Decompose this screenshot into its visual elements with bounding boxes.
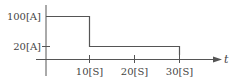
current-waveform — [46, 17, 180, 56]
x-label-10: 10[S] — [76, 66, 103, 77]
x-label-20: 20[S] — [121, 66, 148, 77]
y-label-100: 100[A] — [7, 11, 41, 22]
current-time-chart: t 100[A] 20[A] 10[S] 20[S] 30[S] — [0, 0, 234, 83]
x-axis-arrow-icon — [213, 57, 222, 63]
y-label-20: 20[A] — [13, 41, 41, 52]
x-axis-label: t — [224, 53, 229, 66]
x-label-30: 30[S] — [166, 66, 193, 77]
